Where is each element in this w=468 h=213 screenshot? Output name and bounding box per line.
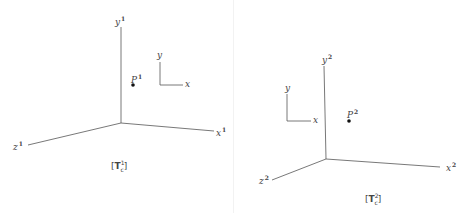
diagram-lines: [0, 0, 468, 213]
right-small-axes: [287, 94, 311, 121]
left-z-axis: [28, 123, 121, 145]
right-point-label: P2: [347, 109, 358, 120]
right-coordinate-frame: [272, 66, 440, 180]
right-y-axis: [324, 66, 326, 159]
left-x-axis-label: x1: [216, 127, 226, 138]
left-small-x-label: x: [185, 80, 190, 89]
right-z-axis: [272, 159, 326, 180]
right-x-axis: [326, 159, 440, 167]
left-x-axis: [121, 123, 214, 131]
left-small-y-label: y: [157, 51, 162, 60]
right-caption: [T2c]: [365, 193, 381, 206]
right-z-axis-label: z2: [259, 175, 269, 186]
left-y-axis-label: y1: [115, 16, 125, 27]
left-caption: [T1c]: [111, 160, 127, 173]
left-small-axes: [160, 62, 183, 85]
left-z-axis-label: z1: [13, 141, 23, 152]
right-small-y-label: y: [285, 84, 290, 93]
right-x-axis-label: x2: [446, 162, 456, 173]
right-small-x-label: x: [313, 116, 318, 125]
right-y-axis-label: y2: [322, 54, 332, 65]
left-point-label: P1: [131, 74, 142, 85]
